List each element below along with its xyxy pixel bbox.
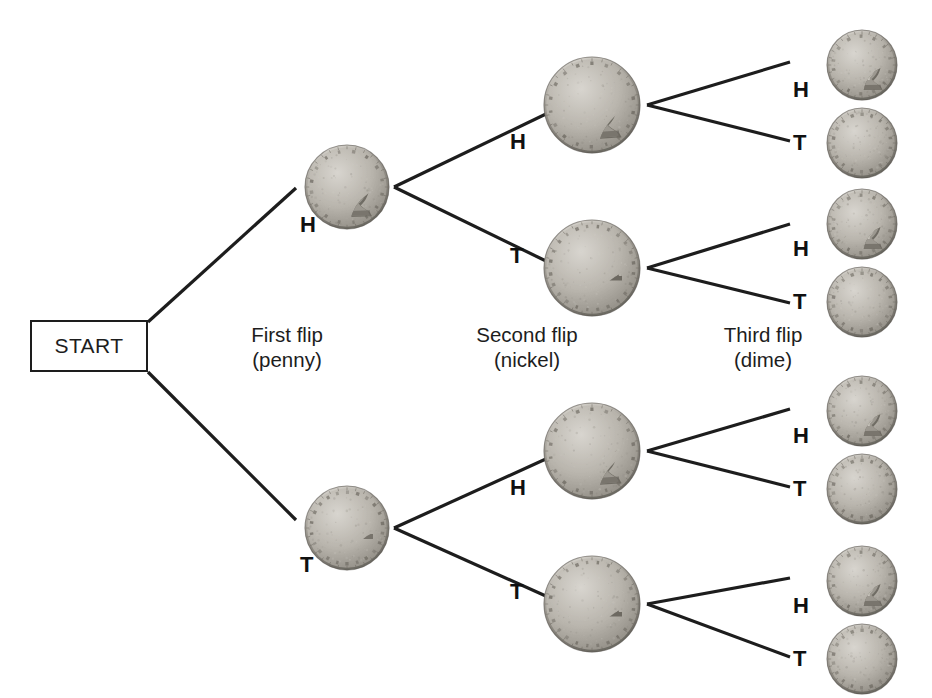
- edge-start-to-penny-T: [148, 372, 296, 520]
- stage-label-second-flip: Second flip(nickel): [397, 322, 657, 372]
- dime-tails-coin: [826, 266, 898, 338]
- nickel-tails-coin: [543, 555, 641, 653]
- start-node: START: [30, 320, 148, 372]
- edge-nickel-HH-to-dime-H: [647, 62, 790, 105]
- outcome-label-p-H: H: [300, 214, 316, 236]
- nickel-heads-coin: [543, 402, 641, 500]
- dime-heads-coin: [826, 545, 898, 617]
- stage-label-first-flip: First flip(penny): [157, 322, 417, 372]
- outcome-label-d-TTH: H: [793, 595, 809, 617]
- edge-start-to-penny-H: [148, 188, 296, 322]
- nickel-tails-coin: [543, 219, 641, 317]
- edge-nickel-TH-to-dime-H: [647, 409, 790, 451]
- outcome-label-p-T: T: [300, 554, 313, 576]
- nickel-heads-coin: [543, 56, 641, 154]
- penny-heads-coin: [304, 144, 390, 230]
- edge-nickel-TT-to-dime-H: [647, 578, 790, 604]
- dime-heads-coin: [826, 29, 898, 101]
- outcome-label-d-HTT: T: [793, 291, 806, 313]
- tree-diagram: START First flip(penny)Second flip(nicke…: [0, 0, 932, 698]
- outcome-label-n-HH: H: [510, 131, 526, 153]
- penny-tails-coin: [304, 485, 390, 571]
- stage-label-line1: Second flip: [397, 322, 657, 347]
- stage-label-line2: (penny): [157, 347, 417, 372]
- edge-nickel-TT-to-dime-T: [647, 604, 790, 657]
- dime-heads-coin: [826, 188, 898, 260]
- outcome-label-d-HHT: T: [793, 132, 806, 154]
- dime-tails-coin: [826, 107, 898, 179]
- outcome-label-d-TTT: T: [793, 648, 806, 670]
- edge-penny-T-to-nickel-T: [394, 528, 548, 597]
- outcome-label-d-THT: T: [793, 478, 806, 500]
- outcome-label-n-TH: H: [510, 477, 526, 499]
- stage-label-line2: (nickel): [397, 347, 657, 372]
- stage-label-line1: First flip: [157, 322, 417, 347]
- edge-penny-H-to-nickel-T: [394, 187, 548, 262]
- outcome-label-d-THH: H: [793, 425, 809, 447]
- outcome-label-n-HT: T: [510, 245, 523, 267]
- dime-tails-coin: [826, 623, 898, 695]
- dime-heads-coin: [826, 375, 898, 447]
- outcome-label-d-HHH: H: [793, 79, 809, 101]
- stage-label-line2: (dime): [633, 347, 893, 372]
- edge-nickel-TH-to-dime-T: [647, 451, 790, 487]
- outcome-label-d-HTH: H: [793, 238, 809, 260]
- edge-nickel-HH-to-dime-T: [647, 105, 790, 141]
- start-label: START: [55, 334, 124, 358]
- edge-nickel-HT-to-dime-T: [647, 268, 790, 303]
- dime-tails-coin: [826, 453, 898, 525]
- edge-nickel-HT-to-dime-H: [647, 224, 790, 268]
- outcome-label-n-TT: T: [510, 581, 523, 603]
